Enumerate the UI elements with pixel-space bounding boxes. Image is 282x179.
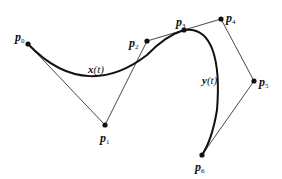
control-point-p1 [102, 122, 107, 127]
control-point-label-p1: p1 [99, 131, 110, 146]
control-point-label-p4: p4 [225, 11, 236, 26]
curve-label-x: x(t) [87, 63, 104, 76]
control-point-label-p2: p2 [128, 36, 139, 51]
curve-y [184, 30, 218, 155]
control-point-p5 [251, 78, 256, 83]
control-point-p0 [25, 41, 30, 46]
curve-label-y: y(t) [200, 74, 218, 87]
control-point-label-p5: p5 [258, 75, 269, 90]
control-point-p6 [199, 152, 204, 157]
control-point-label-p0: p0 [14, 30, 25, 45]
control-point-p2 [144, 38, 149, 43]
control-point-label-p3: p3 [175, 15, 186, 30]
control-polygon [28, 19, 254, 155]
control-point-label-p6: p6 [194, 160, 205, 175]
control-point-p4 [218, 16, 223, 21]
bezier-diagram: p0p1p2p3p4p5p6x(t)y(t) [0, 0, 282, 179]
